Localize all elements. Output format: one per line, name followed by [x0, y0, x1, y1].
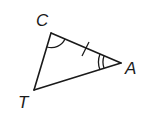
angle-a-arc-outer	[98, 54, 100, 70]
angle-c-arc	[47, 39, 65, 48]
triangle-diagram: C A T	[0, 0, 154, 118]
side-tc	[34, 33, 51, 90]
angle-a-arc-inner	[103, 56, 104, 68]
vertex-label-c: C	[36, 11, 49, 30]
vertex-label-a: A	[124, 59, 136, 78]
side-at	[34, 63, 121, 90]
vertex-label-t: T	[18, 93, 30, 112]
